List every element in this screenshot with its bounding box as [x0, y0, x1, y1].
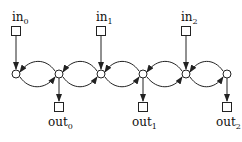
input-port-2 [182, 27, 191, 36]
input-label-1: in1 [96, 10, 113, 26]
node-1 [55, 70, 63, 78]
node-2 [97, 70, 105, 78]
input-port-1 [97, 27, 106, 36]
arcs [20, 61, 223, 86]
node-3 [139, 70, 147, 78]
arc-bot-1-2 [63, 77, 97, 87]
arc-top-5-4 [190, 61, 223, 72]
output-port-2 [223, 103, 232, 112]
output-port-0 [55, 103, 64, 112]
node-4 [182, 70, 190, 78]
arc-top-4-3 [147, 61, 182, 72]
output-label-1: out1 [132, 115, 157, 131]
arc-top-1-0 [20, 61, 55, 72]
output-label-0: out0 [48, 115, 73, 131]
arc-top-2-1 [63, 61, 97, 72]
input-label-2: in2 [181, 10, 198, 26]
input-port-0 [12, 27, 21, 36]
arc-bot-0-1 [20, 77, 55, 87]
output-label-2: out2 [216, 115, 241, 131]
input-label-0: in0 [12, 10, 29, 26]
arc-bot-3-4 [147, 77, 182, 87]
chain-diagram: in0 in1 in2 out0 out1 out2 [0, 0, 242, 142]
node-0 [12, 70, 20, 78]
arc-bot-4-5 [190, 77, 223, 87]
arc-top-3-2 [105, 61, 139, 72]
output-port-1 [139, 103, 148, 112]
arc-bot-2-3 [105, 77, 139, 87]
node-5 [223, 70, 231, 78]
